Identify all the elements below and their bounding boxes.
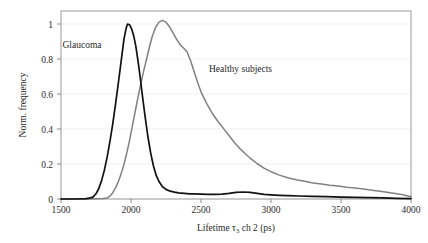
x-tick-label: 2500 xyxy=(192,205,211,215)
y-axis-title: Norm. frequency xyxy=(18,72,28,137)
x-tick-label: 4000 xyxy=(402,205,421,215)
annotation-healthy-subjects: Healthy subjects xyxy=(209,64,272,74)
series-line-glaucoma xyxy=(61,24,411,199)
y-tick-label: 0 xyxy=(48,195,53,205)
y-tickmarks xyxy=(57,24,61,199)
y-tick-label: 0.4 xyxy=(41,125,53,135)
x-tick-labels: 1500 2000 2500 3000 3500 4000 xyxy=(52,205,421,215)
chart-figure: 0 0.2 0.4 0.6 0.8 1 1500 2000 2500 3000 … xyxy=(0,0,428,243)
x-axis-title: Lifetime τ3 ch 2 (ps) xyxy=(197,223,275,234)
x-axis-title-suffix: ch 2 (ps) xyxy=(239,223,275,234)
x-tick-label: 2000 xyxy=(122,205,141,215)
x-tick-label: 3000 xyxy=(262,205,281,215)
plot-frame xyxy=(61,11,411,199)
line-chart-svg: 0 0.2 0.4 0.6 0.8 1 1500 2000 2500 3000 … xyxy=(0,0,428,243)
y-tick-labels: 0 0.2 0.4 0.6 0.8 1 xyxy=(41,20,53,205)
x-tick-label: 3500 xyxy=(332,205,351,215)
annotation-glaucoma: Glaucoma xyxy=(63,40,103,50)
x-tickmarks xyxy=(61,199,411,203)
y-tick-label: 0.8 xyxy=(41,55,53,65)
x-tick-label: 1500 xyxy=(52,205,71,215)
y-tick-label: 1 xyxy=(48,20,53,30)
y-gridlines xyxy=(61,24,411,199)
y-tick-label: 0.6 xyxy=(41,90,53,100)
x-axis-title-prefix: Lifetime xyxy=(197,223,232,233)
y-tick-label: 0.2 xyxy=(41,160,53,170)
series-line-healthy-subjects xyxy=(61,20,411,199)
